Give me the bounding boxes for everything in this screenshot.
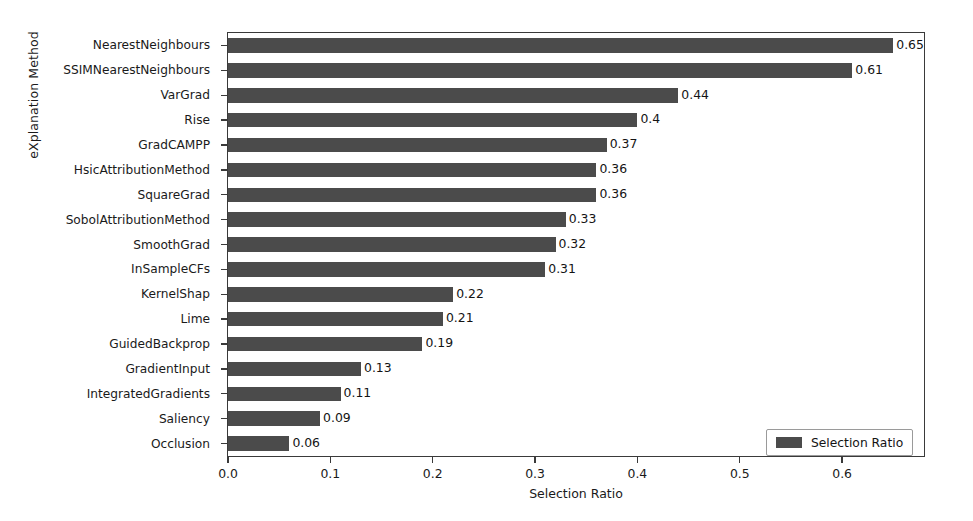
bar-value-label: 0.19 [425, 335, 453, 351]
y-axis-tick-mark [221, 368, 227, 369]
bar [228, 163, 596, 178]
y-axis-tick-mark [221, 393, 227, 394]
bar-row: 0.4 [228, 107, 924, 133]
chart-legend: Selection Ratio [766, 429, 913, 456]
bar-value-label: 0.61 [855, 62, 883, 78]
x-axis-tick-mark [227, 457, 228, 463]
legend-label-selection-ratio: Selection Ratio [811, 436, 903, 450]
y-axis-tick-label: GradientInput [125, 362, 220, 376]
bar-row: 0.36 [228, 157, 924, 183]
bar-value-label: 0.32 [559, 236, 587, 252]
y-axis-tick-mark [221, 169, 227, 170]
bar-row: 0.36 [228, 182, 924, 208]
y-axis-tick-mark [221, 294, 227, 295]
x-axis-label: Selection Ratio [227, 486, 925, 501]
y-axis-tick-mark [221, 194, 227, 195]
y-axis-tick-label: GradCAMPP [138, 138, 220, 152]
bar [228, 387, 341, 402]
y-axis-tick-mark [221, 119, 227, 120]
y-axis-tick-mark [221, 45, 227, 46]
bar-value-label: 0.44 [681, 87, 709, 103]
bar [228, 312, 443, 327]
bar-row: 0.61 [228, 57, 924, 83]
bar [228, 411, 320, 426]
bar-value-label: 0.31 [548, 261, 576, 277]
bar-row: 0.32 [228, 231, 924, 257]
bar-value-label: 0.06 [292, 435, 320, 451]
y-axis-tick-label: SmoothGrad [133, 238, 220, 252]
y-axis-tick-mark [221, 95, 227, 96]
x-axis-tick-label: 0.6 [832, 466, 852, 481]
y-axis-tick-labels: NearestNeighboursSSIMNearestNeighboursVa… [0, 33, 220, 456]
bar-value-label: 0.13 [364, 360, 392, 376]
bar [228, 287, 453, 302]
bar [228, 188, 596, 203]
bar [228, 113, 637, 128]
bar-value-label: 0.21 [446, 310, 474, 326]
y-axis-tick-mark [221, 343, 227, 344]
y-axis-tick-mark [221, 244, 227, 245]
bar [228, 237, 556, 252]
bar [228, 436, 289, 451]
bar-value-label: 0.65 [896, 37, 924, 53]
x-axis-tick-label: 0.3 [525, 466, 545, 481]
bar-value-label: 0.09 [323, 410, 351, 426]
x-axis-tick-label: 0.4 [628, 466, 648, 481]
legend-swatch-selection-ratio [776, 437, 802, 448]
x-axis-tick-mark [432, 457, 433, 463]
bar-value-label: 0.36 [599, 161, 627, 177]
y-axis-tick-mark [221, 269, 227, 270]
y-axis-tick-label: SquareGrad [137, 188, 220, 202]
bar-value-label: 0.4 [640, 111, 660, 127]
x-axis-tick-label: 0.0 [218, 466, 238, 481]
y-axis-tick-mark [221, 318, 227, 319]
x-axis-tick-mark [534, 457, 535, 463]
bar-row: 0.65 [228, 32, 924, 58]
y-axis-tick-label: Occlusion [151, 437, 220, 451]
bar-row: 0.09 [228, 405, 924, 431]
bar-chart-figure: eXplanation Method NearestNeighboursSSIM… [0, 0, 973, 521]
bar-row: 0.37 [228, 132, 924, 158]
bar-value-label: 0.36 [599, 186, 627, 202]
bar-row: 0.11 [228, 381, 924, 407]
y-axis-tick-label: InSampleCFs [131, 262, 220, 276]
bar [228, 88, 678, 103]
y-axis-tick-label: NearestNeighbours [93, 38, 220, 52]
y-axis-tick-label: IntegratedGradients [87, 387, 220, 401]
x-axis-tick-mark [739, 457, 740, 463]
bar [228, 63, 852, 78]
x-axis-tick-mark [841, 457, 842, 463]
bar-row: 0.13 [228, 356, 924, 382]
bar-row: 0.22 [228, 281, 924, 307]
bars-layer: 0.650.610.440.40.370.360.360.330.320.310… [228, 33, 924, 456]
bar-value-label: 0.22 [456, 286, 484, 302]
y-axis-tick-label: SSIMNearestNeighbours [63, 63, 220, 77]
x-axis-tick-label: 0.5 [730, 466, 750, 481]
bar [228, 262, 545, 277]
y-axis-tick-mark [221, 418, 227, 419]
bar-value-label: 0.33 [569, 211, 597, 227]
x-axis-tick-label: 0.2 [423, 466, 443, 481]
y-axis-tick-mark [221, 443, 227, 444]
bar [228, 138, 607, 153]
y-axis-tick-label: HsicAttributionMethod [74, 163, 220, 177]
bar [228, 362, 361, 377]
bar-value-label: 0.37 [610, 136, 638, 152]
y-axis-tick-label: Lime [180, 312, 220, 326]
y-axis-tick-label: SobolAttributionMethod [66, 213, 220, 227]
y-axis-tick-label: Rise [184, 113, 220, 127]
bar-row: 0.19 [228, 331, 924, 357]
x-axis-tick-label: 0.1 [320, 466, 340, 481]
y-axis-tick-label: VarGrad [160, 88, 220, 102]
bar [228, 38, 893, 53]
bar [228, 337, 422, 352]
bar-row: 0.31 [228, 256, 924, 282]
bar-row: 0.33 [228, 206, 924, 232]
bar-row: 0.44 [228, 82, 924, 108]
y-axis-tick-label: Saliency [159, 412, 220, 426]
y-axis-tick-mark [221, 144, 227, 145]
x-axis-tick-mark [330, 457, 331, 463]
x-axis-tick-mark [637, 457, 638, 463]
bar [228, 212, 566, 227]
bar-row: 0.21 [228, 306, 924, 332]
